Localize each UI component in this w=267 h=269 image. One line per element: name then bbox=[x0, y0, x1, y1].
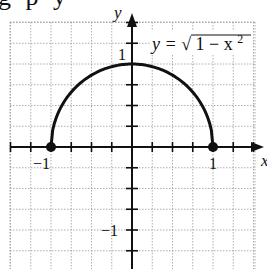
tick-label-x-neg1: −1 bbox=[33, 155, 50, 172]
tick-label-x-pos1: 1 bbox=[209, 155, 217, 172]
x-axis-label: x bbox=[260, 151, 267, 170]
equation-exponent: 2 bbox=[237, 32, 243, 46]
sqrt-symbol: √ bbox=[181, 34, 191, 54]
semicircle-graph: y x −1 1 1 −1 y = √ 1 − x 2 bbox=[0, 0, 267, 269]
tick-label-y-neg1: −1 bbox=[101, 222, 118, 239]
y-axis-arrow-icon bbox=[127, 13, 137, 27]
y-axis-label: y bbox=[112, 3, 122, 22]
endpoint-left bbox=[46, 142, 56, 152]
equation-body: 1 − x bbox=[196, 34, 233, 54]
equation-lhs: y = bbox=[150, 34, 181, 54]
endpoint-right bbox=[208, 142, 218, 152]
tick-label-y-pos1: 1 bbox=[118, 46, 126, 63]
